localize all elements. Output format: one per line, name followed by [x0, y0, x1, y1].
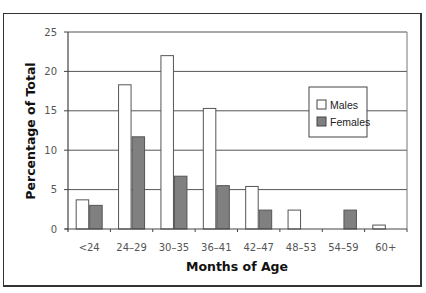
- y-tick-label: 0: [51, 224, 57, 235]
- y-tick-label: 5: [51, 184, 57, 195]
- bar-males: [288, 210, 301, 229]
- bar-females: [132, 137, 145, 229]
- bar-females: [217, 186, 230, 229]
- bar-males: [161, 56, 174, 229]
- x-tick-label: 30–35: [159, 242, 189, 253]
- bar-males: [76, 200, 89, 229]
- y-axis-ticks: 0510152025: [44, 27, 68, 235]
- x-tick-label: 24–29: [116, 242, 146, 253]
- bar-females: [90, 205, 103, 229]
- y-axis-title: Percentage of Total: [23, 62, 38, 199]
- x-tick-label: 60+: [375, 242, 396, 253]
- bars: [76, 56, 385, 229]
- y-tick-label: 20: [44, 66, 57, 77]
- legend-box: [309, 87, 367, 137]
- x-tick-label: 36–41: [201, 242, 231, 253]
- x-tick-label: 42–47: [243, 242, 273, 253]
- x-tick-label: <24: [79, 242, 100, 253]
- legend-swatch-females: [317, 117, 326, 126]
- legend-swatch-males: [317, 100, 326, 109]
- bar-males: [246, 186, 259, 229]
- y-tick-label: 25: [44, 27, 57, 38]
- x-tick-label: 48–53: [286, 242, 316, 253]
- x-tick-label: 54–59: [328, 242, 358, 253]
- bar-males: [119, 85, 132, 229]
- legend-label-males: Males: [330, 99, 358, 111]
- bar-females: [344, 210, 357, 229]
- x-axis-ticks: <2424–2930–3536–4142–4748–5354–5960+: [79, 229, 407, 253]
- y-tick-label: 10: [44, 145, 57, 156]
- bar-chart: 0510152025 <2424–2930–3536–4142–4748–535…: [0, 0, 426, 293]
- legend: Males Females: [309, 87, 370, 137]
- bar-females: [259, 210, 272, 229]
- bar-males: [203, 108, 216, 229]
- y-tick-label: 15: [44, 105, 57, 116]
- x-axis-title: Months of Age: [186, 259, 288, 274]
- bar-females: [174, 176, 187, 229]
- legend-label-females: Females: [330, 116, 370, 128]
